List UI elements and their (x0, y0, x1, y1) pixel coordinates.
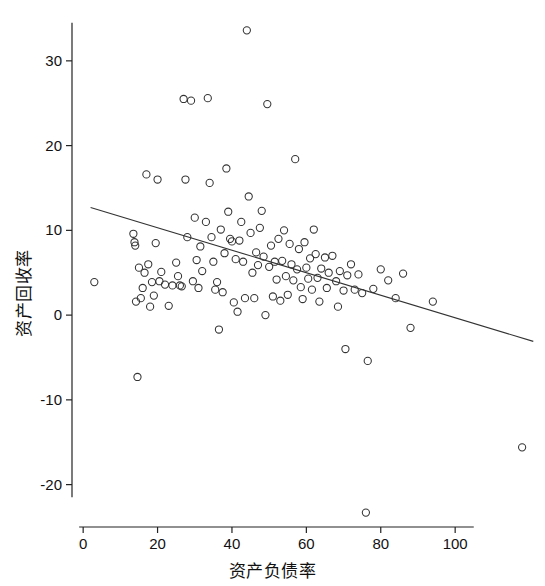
data-point (206, 179, 213, 186)
data-point (174, 273, 181, 280)
data-point (269, 293, 276, 300)
data-point (355, 271, 362, 278)
data-point (208, 234, 215, 241)
x-tick-label: 0 (79, 535, 87, 552)
data-point (299, 295, 306, 302)
x-tick-label: 40 (224, 535, 241, 552)
data-point (295, 245, 302, 252)
data-point (141, 269, 148, 276)
data-point (213, 278, 220, 285)
data-point (329, 252, 336, 259)
data-point (182, 176, 189, 183)
data-point (210, 258, 217, 265)
data-point (340, 287, 347, 294)
data-point (273, 276, 280, 283)
data-point (519, 444, 526, 451)
data-point (399, 270, 406, 277)
data-point (264, 100, 271, 107)
data-point (243, 27, 250, 34)
data-point (154, 176, 161, 183)
data-point (195, 284, 202, 291)
data-point (254, 262, 261, 269)
data-point (197, 243, 204, 250)
data-point (199, 267, 206, 274)
data-point (180, 95, 187, 102)
y-tick-label: 0 (54, 306, 62, 323)
data-point (238, 218, 245, 225)
data-point (286, 240, 293, 247)
data-point (308, 286, 315, 293)
data-point (247, 229, 254, 236)
data-point (310, 226, 317, 233)
data-point (336, 267, 343, 274)
data-point (312, 250, 319, 257)
trend-line (91, 207, 534, 341)
data-point (256, 224, 263, 231)
data-point (347, 261, 354, 268)
data-point (429, 298, 436, 305)
data-point (318, 265, 325, 272)
data-point (169, 282, 176, 289)
data-point (230, 299, 237, 306)
data-point (258, 207, 265, 214)
y-tick-label: 20 (45, 137, 62, 154)
data-point (290, 277, 297, 284)
data-point (249, 269, 256, 276)
data-point (245, 193, 252, 200)
y-tick-label: -10 (40, 391, 62, 408)
x-tick-label: 80 (372, 535, 389, 552)
y-tick-label: 30 (45, 52, 62, 69)
data-point (147, 303, 154, 310)
x-tick-label: 100 (443, 535, 468, 552)
data-point (280, 227, 287, 234)
data-point (158, 268, 165, 275)
data-point (251, 295, 258, 302)
data-point (189, 278, 196, 285)
data-point (187, 97, 194, 104)
data-point (277, 297, 284, 304)
data-point (150, 292, 157, 299)
data-point (271, 258, 278, 265)
data-point (148, 278, 155, 285)
x-tick-label: 20 (149, 535, 166, 552)
scatter-chart: 020406080100-20-100102030 资产回收率 资产负债率 (0, 0, 545, 586)
data-point (314, 274, 321, 281)
data-point (193, 256, 200, 263)
data-point (262, 312, 269, 319)
plot-area: 020406080100-20-100102030 (0, 0, 545, 586)
data-point (321, 254, 328, 261)
data-point (301, 239, 308, 246)
data-point (217, 226, 224, 233)
data-point (362, 509, 369, 516)
y-tick-label: -20 (40, 476, 62, 493)
data-point (385, 277, 392, 284)
data-point (275, 235, 282, 242)
data-point (143, 171, 150, 178)
data-point (241, 295, 248, 302)
data-point (292, 156, 299, 163)
data-point (279, 257, 286, 264)
data-point (236, 237, 243, 244)
data-point (173, 259, 180, 266)
data-point (212, 286, 219, 293)
data-point (240, 258, 247, 265)
data-point (91, 278, 98, 285)
data-point (145, 261, 152, 268)
data-point (323, 284, 330, 291)
data-point (221, 250, 228, 257)
data-point (234, 308, 241, 315)
data-point (284, 291, 291, 298)
data-point (260, 253, 267, 260)
data-point (359, 289, 366, 296)
data-point (139, 284, 146, 291)
x-axis-label: 资产负债率 (0, 557, 545, 582)
data-point (370, 285, 377, 292)
data-point (232, 256, 239, 263)
data-point (130, 230, 137, 237)
data-point (253, 249, 260, 256)
data-point (342, 345, 349, 352)
data-point (344, 272, 351, 279)
data-point (377, 266, 384, 273)
data-point (134, 373, 141, 380)
data-point (364, 357, 371, 364)
